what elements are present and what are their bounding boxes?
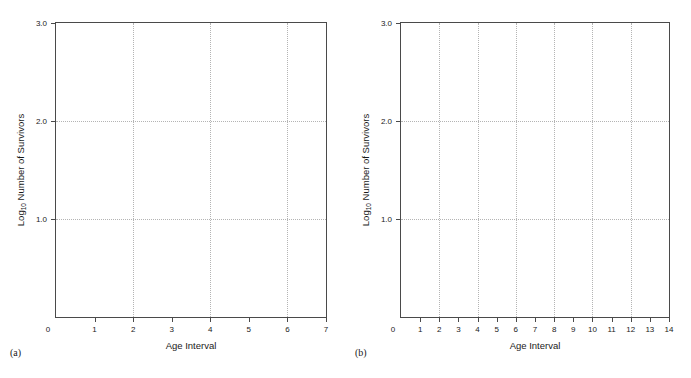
y-axis-label-prefix-b: Log <box>360 210 371 226</box>
y-tick-a <box>51 219 56 220</box>
y-tick-label-a: 3.0 <box>36 19 47 28</box>
x-tick-b <box>592 317 593 322</box>
x-tick-label-a: 7 <box>324 325 328 334</box>
gridline-vertical-a <box>287 23 288 317</box>
x-tick-label-a: 5 <box>247 325 251 334</box>
x-tick-label-a: 4 <box>208 325 212 334</box>
gridline-horizontal-a <box>56 121 326 122</box>
y-tick-a <box>51 121 56 122</box>
x-tick-b <box>497 317 498 322</box>
y-tick-a <box>51 23 56 24</box>
x-tick-label-b: 7 <box>533 325 537 334</box>
x-tick-label-b: 12 <box>626 325 635 334</box>
x-tick-b <box>420 317 421 322</box>
gridline-horizontal-a <box>56 219 326 220</box>
x-tick-a <box>249 317 250 322</box>
x-tick-label-b: 8 <box>552 325 556 334</box>
y-tick-label-b: 1.0 <box>381 215 392 224</box>
y-tick-b <box>396 219 401 220</box>
gridline-horizontal-b <box>401 121 669 122</box>
x-tick-b <box>612 317 613 322</box>
plot-area-a: 012345671.02.03.0 <box>55 22 327 318</box>
y-axis-label-a: Log10 Number of Survivors <box>14 22 28 318</box>
y-axis-label-subscript-b: 10 <box>365 203 372 210</box>
x-tick-b <box>669 317 670 322</box>
x-tick-b <box>573 317 574 322</box>
gridline-vertical-b <box>439 23 440 317</box>
y-tick-label-a: 1.0 <box>36 215 47 224</box>
panel-a: Log10 Number of Survivors 012345671.02.0… <box>0 0 345 378</box>
y-axis-label-b: Log10 Number of Survivors <box>359 22 373 318</box>
gridline-horizontal-b <box>401 219 669 220</box>
x-tick-a <box>172 317 173 322</box>
x-tick-a <box>210 317 211 322</box>
x-tick-label-b: 1 <box>418 325 422 334</box>
x-tick-label-b: 9 <box>571 325 575 334</box>
gridline-vertical-b <box>631 23 632 317</box>
x-tick-label-b: 13 <box>645 325 654 334</box>
x-tick-b <box>478 317 479 322</box>
y-axis-label-main-b: Number of Survivors <box>360 114 371 201</box>
gridline-vertical-a <box>133 23 134 317</box>
y-axis-label-main-a: Number of Survivors <box>15 114 26 201</box>
gridline-vertical-b <box>592 23 593 317</box>
x-tick-a <box>326 317 327 322</box>
y-axis-label-prefix-a: Log <box>15 210 26 226</box>
x-tick-a <box>287 317 288 322</box>
x-tick-b <box>535 317 536 322</box>
x-tick-b <box>458 317 459 322</box>
x-tick-label-b: 14 <box>665 325 674 334</box>
x-tick-label-a: 6 <box>285 325 289 334</box>
plot-area-b: 012345678910111213141.02.03.0 <box>400 22 670 318</box>
x-tick-label-a: 1 <box>92 325 96 334</box>
gridline-vertical-b <box>516 23 517 317</box>
x-tick-label-b: 2 <box>437 325 441 334</box>
x-tick-label-b: 5 <box>494 325 498 334</box>
x-tick-label-b: 10 <box>588 325 597 334</box>
y-axis-label-subscript-a: 10 <box>20 203 27 210</box>
y-tick-b <box>396 23 401 24</box>
x-tick-a <box>95 317 96 322</box>
gridline-vertical-b <box>478 23 479 317</box>
figure-two-panel-survivorship: Log10 Number of Survivors 012345671.02.0… <box>0 0 691 378</box>
x-tick-b <box>631 317 632 322</box>
panel-b: Log10 Number of Survivors 01234567891011… <box>345 0 691 378</box>
y-tick-label-b: 3.0 <box>381 19 392 28</box>
panel-caption-a: (a) <box>10 347 21 359</box>
x-tick-label-b: 3 <box>456 325 460 334</box>
y-tick-b <box>396 121 401 122</box>
x-tick-label-b: 6 <box>514 325 518 334</box>
x-tick-label-a: 2 <box>131 325 135 334</box>
x-tick-label-b: 11 <box>607 325 615 334</box>
x-tick-b <box>650 317 651 322</box>
x-tick-b <box>554 317 555 322</box>
x-tick-label-a: 3 <box>169 325 173 334</box>
x-axis-label-a: Age Interval <box>55 340 327 351</box>
x-tick-label-b: 0 <box>391 325 395 334</box>
gridline-vertical-b <box>554 23 555 317</box>
x-tick-b <box>439 317 440 322</box>
x-axis-label-b: Age Interval <box>400 340 670 351</box>
gridline-vertical-a <box>210 23 211 317</box>
x-tick-a <box>133 317 134 322</box>
x-tick-label-b: 4 <box>475 325 479 334</box>
y-tick-label-a: 2.0 <box>36 117 47 126</box>
x-tick-label-a: 0 <box>46 325 50 334</box>
x-tick-b <box>516 317 517 322</box>
panel-caption-b: (b) <box>355 347 367 359</box>
y-tick-label-b: 2.0 <box>381 117 392 126</box>
